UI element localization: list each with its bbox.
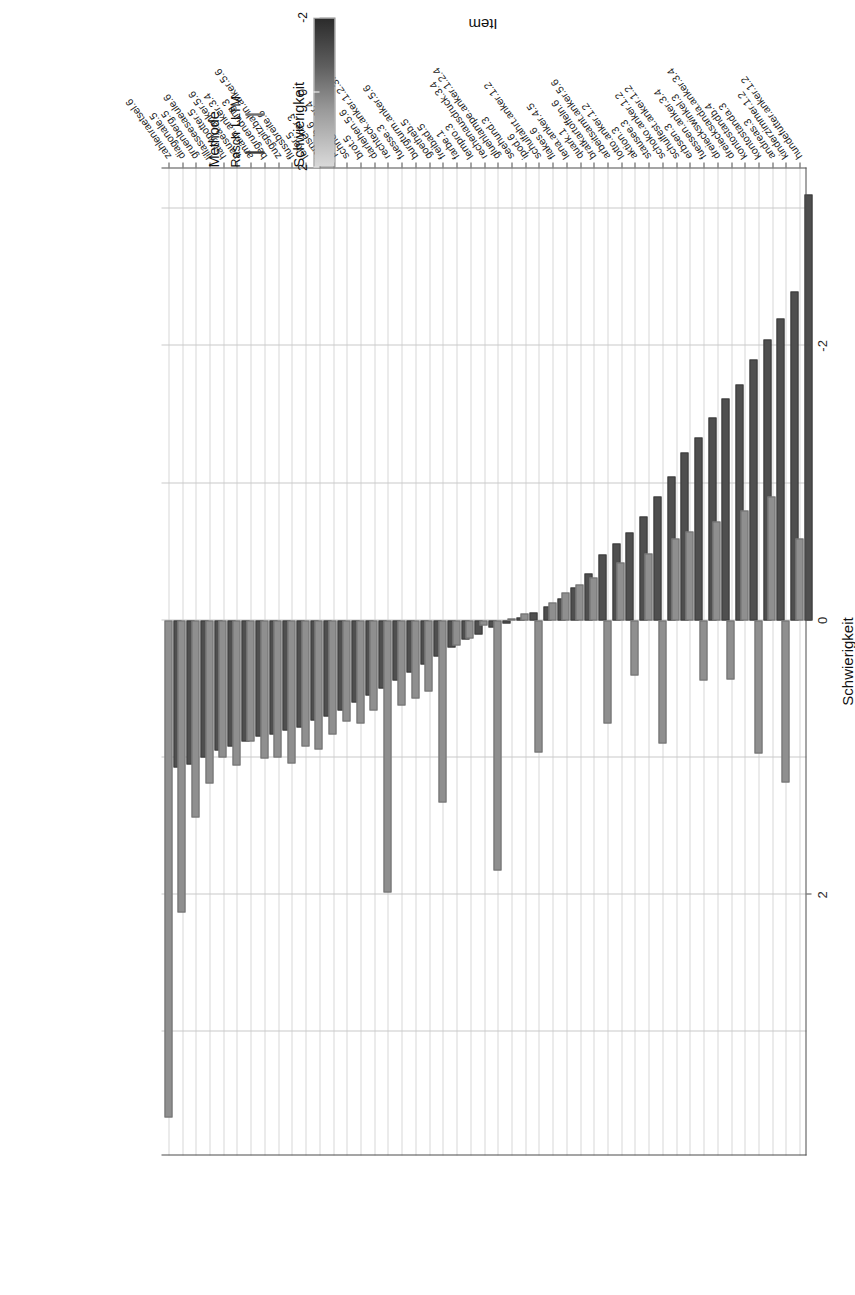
y-axis-tick [401, 162, 402, 167]
bar-rasch [721, 398, 729, 620]
y-axis-tick [511, 162, 512, 167]
gridline-value [161, 756, 806, 757]
gridline-item [456, 167, 457, 1155]
x-axis-tick [806, 344, 811, 345]
gridline-item [484, 167, 485, 1155]
gridline-item [676, 167, 677, 1155]
y-axis-tick [593, 162, 594, 167]
x-axis-tick [806, 619, 811, 620]
gridline-item [648, 167, 649, 1155]
gridline-item [689, 167, 690, 1155]
bar-lltm [342, 620, 350, 722]
y-axis-tick [731, 162, 732, 167]
y-axis-tick [744, 162, 745, 167]
bar-lltm [548, 602, 556, 620]
colorbar-wrap: 20-2 [313, 17, 335, 167]
y-axis-tick [580, 162, 581, 167]
bar-lltm [452, 620, 460, 645]
y-axis-tick [415, 162, 416, 167]
x-axis-tick-label: 0 [814, 600, 829, 640]
y-axis-tick [785, 162, 786, 167]
x-axis-tick-label: 2 [814, 874, 829, 914]
colorbar-tick [313, 91, 319, 92]
x-axis-tick-label: -2 [814, 325, 829, 365]
legend-entry-rasch[interactable]: Rasch [228, 132, 264, 167]
gridline-item [525, 167, 526, 1155]
legend-schwierigkeit: Schwierigkeit 20-2 [290, 0, 335, 167]
legend-swatch-lltm [245, 113, 264, 115]
y-axis-tick [689, 162, 690, 167]
bar-lltm [507, 618, 515, 620]
gridline-value [161, 207, 806, 208]
y-axis-tick [195, 162, 196, 167]
x-axis-title: Schwierigkeit [838, 27, 855, 1295]
bar-lltm [781, 620, 789, 782]
colorbar-tick-label: 2 [295, 154, 309, 180]
bar-rasch [529, 612, 537, 620]
gridline-item [552, 167, 553, 1155]
bar-lltm [191, 620, 199, 818]
bar-lltm [411, 620, 419, 698]
bar-lltm [520, 613, 528, 620]
y-axis-tick [772, 162, 773, 167]
y-axis-title: Item [467, 16, 496, 33]
bar-rasch [598, 554, 606, 620]
bar-rasch [804, 194, 812, 619]
x-axis-tick [806, 893, 811, 894]
bar-lltm [273, 620, 281, 757]
bar-lltm [589, 577, 597, 620]
legend-entry-lltm[interactable]: LLTM [228, 96, 264, 127]
gridline-item [470, 167, 471, 1155]
y-axis-tick [525, 162, 526, 167]
y-axis-tick [552, 162, 553, 167]
y-axis-tick [456, 162, 457, 167]
bar-lltm [712, 521, 720, 620]
y-axis-tick [607, 162, 608, 167]
colorbar-tick [313, 16, 319, 17]
gridline-value [161, 344, 806, 345]
bar-lltm [767, 496, 775, 620]
y-axis-tick [717, 162, 718, 167]
y-axis-tick [484, 162, 485, 167]
gridline-item [593, 167, 594, 1155]
y-axis-tick [676, 162, 677, 167]
bar-lltm [603, 620, 611, 723]
y-axis-tick [470, 162, 471, 167]
gridline-value [161, 1031, 806, 1032]
gridline-value [161, 893, 806, 894]
colorbar-tick-label: 0 [295, 79, 309, 105]
bar-lltm [493, 620, 501, 870]
y-axis-tick [634, 162, 635, 167]
bar-rasch [653, 496, 661, 620]
bar-lltm [644, 553, 652, 620]
gridline-item [799, 167, 800, 1155]
bar-lltm [287, 620, 295, 763]
y-axis-tick [703, 162, 704, 167]
bar-lltm [754, 620, 762, 753]
gridline-item [580, 167, 581, 1155]
gridline-item [717, 167, 718, 1155]
gridline-item [566, 167, 567, 1155]
gridline-item [621, 167, 622, 1155]
plot-panel [161, 167, 806, 1155]
gridline-item [744, 167, 745, 1155]
bar-lltm [397, 620, 405, 705]
y-axis-tick [648, 162, 649, 167]
y-axis-tick [168, 162, 169, 167]
bar-rasch [694, 437, 702, 620]
bar-lltm [465, 620, 473, 638]
legend-methode: Methode Rasch LLTM [205, 0, 264, 167]
bar-lltm [740, 510, 748, 620]
legend-methode-title: Methode [205, 0, 221, 167]
legend-label-rasch: Rasch [228, 132, 242, 167]
bar-lltm [438, 620, 446, 803]
bar-lltm [630, 620, 638, 675]
bar-rasch [749, 359, 757, 620]
bar-lltm [246, 620, 254, 741]
bar-lltm [534, 620, 542, 752]
y-axis-tick [442, 162, 443, 167]
bar-lltm [260, 620, 268, 759]
y-axis-tick [429, 162, 430, 167]
bar-lltm [685, 531, 693, 620]
bar-lltm [205, 620, 213, 783]
